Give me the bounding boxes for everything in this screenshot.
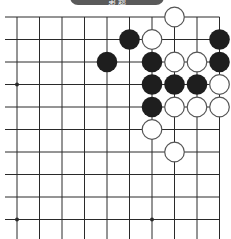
white-stone[interactable] [210, 75, 230, 95]
white-stone[interactable] [187, 52, 207, 72]
black-stone[interactable] [142, 97, 163, 118]
white-stone[interactable] [165, 52, 185, 72]
white-stone[interactable] [165, 97, 185, 117]
white-stone[interactable] [187, 97, 207, 117]
white-stone[interactable] [142, 120, 162, 140]
black-stone[interactable] [142, 74, 163, 95]
board-grid [5, 17, 220, 239]
black-stone[interactable] [142, 52, 163, 73]
black-stone[interactable] [97, 52, 118, 73]
star-point [15, 218, 19, 222]
star-point [150, 218, 154, 222]
star-point [15, 83, 19, 87]
black-stone[interactable] [187, 74, 208, 95]
black-stone[interactable] [119, 29, 140, 50]
black-stone[interactable] [209, 29, 230, 50]
black-stone[interactable] [209, 52, 230, 73]
go-board[interactable] [0, 0, 231, 239]
white-stone[interactable] [142, 30, 162, 50]
white-stone[interactable] [210, 97, 230, 117]
white-stone[interactable] [165, 7, 185, 27]
white-stone[interactable] [165, 142, 185, 162]
black-stone[interactable] [164, 74, 185, 95]
